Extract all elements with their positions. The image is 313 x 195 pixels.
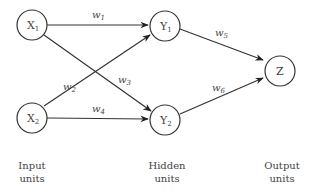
svg-text:Z: Z bbox=[276, 65, 284, 78]
edges bbox=[44, 25, 263, 119]
layer-label-input-line2: units bbox=[2, 172, 62, 185]
weight-w4: w4 bbox=[92, 103, 105, 116]
layer-label-input-line1: Input bbox=[2, 159, 62, 172]
layer-label-hidden-line1: Hidden bbox=[137, 159, 197, 172]
layer-label-input: Input units bbox=[2, 159, 62, 185]
node-x2: X2 bbox=[17, 103, 47, 133]
weight-w3: w3 bbox=[118, 74, 132, 87]
edge-y2-z bbox=[180, 78, 263, 114]
node-z: Z bbox=[265, 56, 295, 86]
weight-w5: w5 bbox=[215, 27, 229, 40]
layer-label-hidden: Hidden units bbox=[137, 159, 197, 185]
node-y1: Y1 bbox=[150, 11, 180, 41]
layer-label-hidden-line2: units bbox=[137, 172, 197, 185]
weight-w6: w6 bbox=[212, 82, 226, 95]
layer-label-output: Output units bbox=[252, 159, 312, 185]
edge-x2-y2 bbox=[47, 118, 148, 119]
weight-w1: w1 bbox=[92, 9, 105, 22]
edge-x1-y2 bbox=[44, 35, 151, 111]
node-y2: Y2 bbox=[150, 105, 180, 135]
node-x1: X1 bbox=[17, 10, 47, 40]
layer-label-output-line2: units bbox=[252, 172, 312, 185]
layer-label-output-line1: Output bbox=[252, 159, 312, 172]
